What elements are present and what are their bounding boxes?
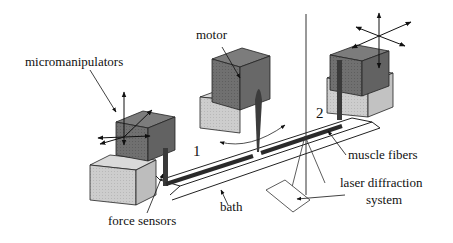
left-force-sensor-post — [163, 148, 168, 186]
label-force-sensors: force sensors — [108, 214, 176, 228]
marker-1: 1 — [193, 144, 201, 159]
label-laser-system: system — [366, 193, 402, 207]
left-light-block — [90, 155, 156, 205]
label-bath: bath — [220, 200, 242, 214]
label-muscle-fibers: muscle fibers — [348, 148, 418, 162]
motor-shaft — [255, 89, 262, 152]
label-motor: motor — [196, 28, 227, 42]
label-micromanipulators: micromanipulators — [25, 55, 123, 69]
label-laser-diffraction: laser diffraction — [340, 176, 422, 190]
marker-2: 2 — [316, 106, 324, 121]
right-force-sensor-post — [337, 60, 342, 120]
